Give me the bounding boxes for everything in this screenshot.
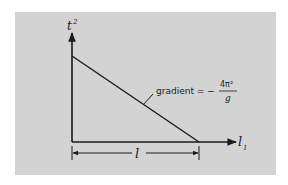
annotation-denominator: g [225,93,231,103]
x-axis-label-subscript: 1 [243,144,247,152]
y-axis-label-superscript: 2 [72,18,78,26]
span-label: l [135,146,139,161]
annotation-leader [143,94,153,105]
y-axis-label: t [67,19,72,33]
diagram-canvas: t 2 l 1 l gradient = − 4π² g [0,0,288,185]
annotation-numerator: 4π² [220,80,233,89]
x-axis-label: l [238,134,242,149]
annotation-prefix: gradient = − [156,86,215,96]
gradient-line [72,56,199,142]
